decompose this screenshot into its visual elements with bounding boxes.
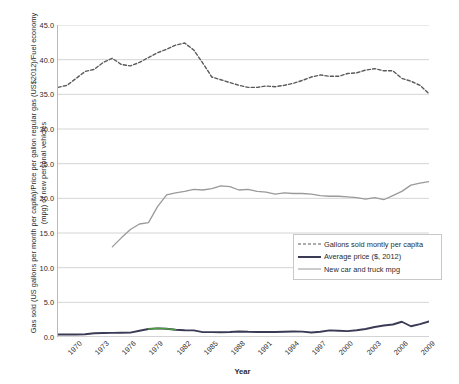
x-tick-label: 1970 bbox=[66, 339, 84, 357]
y-tick-label: 30.0 bbox=[26, 125, 54, 134]
y-tick-label: 45.0 bbox=[26, 21, 54, 30]
x-tick-label: 2000 bbox=[337, 339, 355, 357]
x-tick-label: 1991 bbox=[256, 339, 274, 357]
y-tick-label: 10.0 bbox=[26, 263, 54, 272]
legend-item: New car and truck mpg bbox=[298, 263, 437, 276]
x-tick-label: 1994 bbox=[283, 339, 301, 357]
y-tick-label: 0.0 bbox=[26, 333, 54, 342]
legend-swatch-solid-gray-icon bbox=[298, 265, 321, 273]
plot-svg bbox=[58, 25, 429, 337]
x-tick-label: 2006 bbox=[392, 339, 410, 357]
x-tick-label: 2003 bbox=[364, 339, 382, 357]
x-tick-label: 1985 bbox=[202, 339, 220, 357]
x-axis-title: Year bbox=[57, 367, 428, 376]
x-tick-label: 1976 bbox=[120, 339, 138, 357]
x-tick-label: 1982 bbox=[174, 339, 192, 357]
y-tick-label: 15.0 bbox=[26, 229, 54, 238]
y-axis-tick-labels: 0.05.010.015.020.025.030.035.040.045.0 bbox=[24, 0, 54, 384]
y-tick-label: 5.0 bbox=[26, 298, 54, 307]
legend-item: Average price ($, 2012) bbox=[298, 251, 437, 264]
y-tick-label: 20.0 bbox=[26, 194, 54, 203]
y-tick-label: 35.0 bbox=[26, 90, 54, 99]
x-tick-label: 1979 bbox=[147, 339, 165, 357]
legend-swatch-dashed-icon bbox=[298, 240, 321, 248]
line-chart: Gas sold (US gallons per month per capit… bbox=[0, 0, 459, 384]
legend-item: Gallons sold montly per capita bbox=[298, 238, 437, 251]
legend-swatch-line bbox=[298, 269, 321, 270]
series-line bbox=[58, 321, 429, 334]
legend-swatch-solid-dark-icon bbox=[298, 253, 321, 261]
legend-item-label: New car and truck mpg bbox=[324, 265, 400, 274]
legend-swatch-line bbox=[298, 256, 321, 258]
y-tick-label: 40.0 bbox=[26, 55, 54, 64]
legend-swatch-line bbox=[298, 244, 321, 245]
y-tick-label: 25.0 bbox=[26, 159, 54, 168]
chart-legend: Gallons sold montly per capitaAverage pr… bbox=[293, 234, 442, 280]
x-tick-label: 2009 bbox=[419, 339, 437, 357]
x-tick-label: 1973 bbox=[93, 339, 111, 357]
legend-item-label: Average price ($, 2012) bbox=[324, 252, 401, 261]
series-line bbox=[58, 43, 429, 94]
plot-area bbox=[57, 25, 428, 337]
x-tick-label: 1988 bbox=[229, 339, 247, 357]
x-tick-label: 1997 bbox=[310, 339, 328, 357]
legend-item-label: Gallons sold montly per capita bbox=[324, 240, 423, 249]
